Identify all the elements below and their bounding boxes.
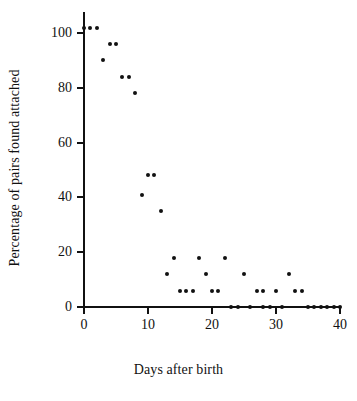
data-point — [255, 289, 259, 293]
data-point — [178, 289, 182, 293]
x-tick-label-40: 40 — [320, 318, 357, 332]
y-tick-100 — [77, 32, 83, 34]
y-tick-label-text: 20 — [28, 245, 72, 259]
data-point — [325, 305, 329, 309]
data-point — [114, 42, 118, 46]
y-tick-label-100: 100 — [20, 26, 72, 40]
data-point — [101, 58, 105, 62]
data-point — [319, 305, 323, 309]
y-tick-40 — [77, 196, 83, 198]
data-point — [159, 209, 163, 213]
data-point — [236, 305, 240, 309]
data-point — [127, 75, 131, 79]
data-point — [268, 305, 272, 309]
data-point — [248, 305, 252, 309]
x-tick-0 — [83, 308, 85, 314]
data-point — [338, 305, 342, 309]
x-axis-title: Days after birth — [0, 362, 357, 378]
data-point — [210, 289, 214, 293]
plot-area: 020406080100 010203040 — [0, 0, 357, 401]
data-point — [197, 256, 201, 260]
data-point — [120, 75, 124, 79]
data-point — [242, 272, 246, 276]
data-point — [261, 289, 265, 293]
data-point — [229, 305, 233, 309]
data-point — [204, 272, 208, 276]
data-point — [274, 289, 278, 293]
y-tick-label-text: 60 — [28, 136, 72, 150]
x-tick-label-20: 20 — [192, 318, 232, 332]
data-point — [332, 305, 336, 309]
data-point — [172, 256, 176, 260]
x-tick-label-30: 30 — [256, 318, 296, 332]
y-tick-80 — [77, 87, 83, 89]
data-point — [223, 256, 227, 260]
y-tick-label-text: 100 — [28, 26, 72, 40]
data-point — [191, 289, 195, 293]
data-point — [280, 305, 284, 309]
y-tick-label-60: 60 — [20, 136, 72, 150]
data-point — [184, 289, 188, 293]
data-point — [293, 289, 297, 293]
y-tick-60 — [77, 142, 83, 144]
x-tick-label-0: 0 — [64, 318, 104, 332]
x-tick-30 — [275, 308, 277, 314]
data-point — [108, 42, 112, 46]
y-tick-label-text: 40 — [28, 190, 72, 204]
y-axis-title: Percentage of pairs found attached — [4, 0, 26, 338]
y-tick-label-20: 20 — [20, 245, 72, 259]
data-point — [82, 26, 86, 30]
x-tick-10 — [147, 308, 149, 314]
y-tick-label-text: 0 — [28, 300, 72, 314]
data-point — [133, 91, 137, 95]
data-point — [287, 272, 291, 276]
data-point — [306, 305, 310, 309]
data-point — [312, 305, 316, 309]
y-axis-line — [83, 12, 85, 308]
y-tick-label-0: 0 — [20, 300, 72, 314]
data-point — [140, 193, 144, 197]
x-tick-20 — [211, 308, 213, 314]
data-point — [300, 289, 304, 293]
x-tick-label-10: 10 — [128, 318, 168, 332]
data-point — [165, 272, 169, 276]
y-tick-label-80: 80 — [20, 81, 72, 95]
y-tick-label-40: 40 — [20, 190, 72, 204]
data-point — [216, 289, 220, 293]
data-point — [261, 305, 265, 309]
y-tick-label-text: 80 — [28, 81, 72, 95]
y-tick-20 — [77, 251, 83, 253]
data-point — [146, 173, 150, 177]
scatter-plot-figure: 020406080100 010203040 Percentage of pai… — [0, 0, 357, 401]
data-point — [95, 26, 99, 30]
data-point — [88, 26, 92, 30]
data-point — [152, 173, 156, 177]
